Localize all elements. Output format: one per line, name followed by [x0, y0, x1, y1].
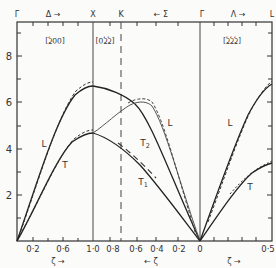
x-tick-label: 0·8 [106, 244, 120, 254]
top-label-l: L [270, 10, 275, 19]
y-tick-label: 8 [6, 51, 12, 62]
top-label-lambda: Λ → [231, 10, 246, 19]
x-axis-label-sigma: ← ζ [144, 257, 158, 266]
direction-label-00z: [00ζ] [45, 36, 65, 45]
y-tick-label: 4 [6, 144, 12, 155]
branch-label-lambda-T: T [246, 182, 253, 192]
branch-label-lambda-L: L [227, 118, 232, 128]
x-axis-label-delta: ζ → [51, 257, 65, 266]
top-label-sigma: ← Σ [154, 10, 168, 19]
lambda-L-dashed-curve [208, 81, 272, 222]
branch-label-delta-T: T [61, 160, 68, 170]
right-axis-ticks [267, 33, 272, 218]
branch-label-sigma-T2: T2 [139, 138, 150, 150]
x-tick-label: 1·0 [86, 244, 100, 254]
y-tick-label: 6 [6, 97, 12, 108]
lambda-L-curve [200, 84, 272, 241]
x-tick-label: 0·5 [261, 244, 275, 254]
sigma-T1-dashed-curve [118, 143, 156, 178]
lambda-T-curve [200, 163, 272, 241]
sigma-T2-dashed-curve [128, 99, 196, 235]
branch-label-sigma-L: L [167, 118, 172, 128]
x-axis-label-lambda: ζ → [227, 257, 241, 266]
direction-label-zzz: [ζζζ] [223, 36, 241, 45]
x-tick-label: 0·6 [129, 244, 143, 254]
dispersion-chart: 2 4 6 8 Γ Δ → X K ← Σ Γ Λ → L [00ζ] [ζζ0… [0, 0, 276, 268]
delta-T-dashed-curve [20, 130, 93, 235]
top-label-x: X [90, 10, 96, 19]
top-label-delta: Δ → [46, 10, 61, 19]
x-tick-label: 0·4 [150, 244, 164, 254]
sigma-L-curve [93, 86, 200, 241]
x-tick-label: 0 [197, 244, 202, 254]
top-label-k: K [118, 10, 124, 19]
delta-L-dashed-curve [19, 82, 93, 236]
branch-label-sigma-T1: T1 [137, 177, 148, 189]
top-label-gamma: Γ [15, 10, 20, 19]
branch-label-delta-L: L [41, 139, 46, 149]
delta-T-curve [17, 133, 93, 241]
top-label-gamma: Γ [200, 10, 205, 19]
x-tick-label: 0·2 [172, 244, 186, 254]
x-tick-label: 0·2 [26, 244, 40, 254]
y-tick-label: 2 [6, 190, 12, 201]
y-axis-ticks [17, 33, 22, 218]
x-tick-label: 0·6 [56, 244, 70, 254]
delta-L-curve [17, 86, 93, 241]
direction-label-zz0: [ζζ0] [96, 36, 115, 45]
